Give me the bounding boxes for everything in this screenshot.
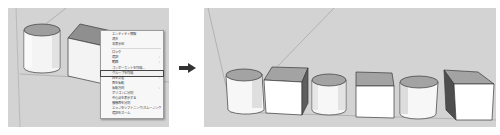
menu-item-zoom-selection[interactable]: 選択をズーム xyxy=(101,111,163,116)
box-shape[interactable] xyxy=(356,72,394,118)
box-shape[interactable] xyxy=(444,70,494,120)
cylinder-shape[interactable] xyxy=(226,69,264,114)
sketchup-viewport-before[interactable]: エンティティ情報 消去 非表示化 ロック 選択› 範囲› コンポーネントを作成.… xyxy=(8,8,169,127)
menu-item-label: 選択をズーム xyxy=(112,111,130,115)
menu-item-label: グループを作成 xyxy=(112,71,133,75)
cylinder-shape[interactable] xyxy=(400,76,438,119)
cylinder-shape[interactable] xyxy=(24,24,60,73)
menu-item-label: 範囲 xyxy=(112,60,118,64)
cylinder-shape[interactable] xyxy=(312,74,346,115)
menu-item-label: エンティティ情報 xyxy=(112,32,136,36)
sketchup-viewport-after[interactable] xyxy=(204,8,496,127)
menu-item-label: エッジをソフトニング/スムージング xyxy=(112,106,161,110)
menu-item-label: 非表示化 xyxy=(112,42,124,46)
menu-item-label: ポリゴンに分割 xyxy=(112,91,133,95)
menu-item-label: 中心点を表示する xyxy=(112,96,136,100)
menu-item-label: 接触面を分割 xyxy=(112,101,130,105)
box-shape[interactable] xyxy=(264,67,308,115)
menu-item-label: 消去 xyxy=(112,37,118,41)
menu-item-label: 反転方向 xyxy=(112,86,124,90)
menu-item-label: 面を反転 xyxy=(112,81,124,85)
menu-separator xyxy=(111,48,161,49)
arrow-right-icon xyxy=(179,63,196,73)
menu-item-label: 面を交差 xyxy=(112,76,124,80)
viewport-scene xyxy=(204,8,496,127)
context-menu: エンティティ情報 消去 非表示化 ロック 選択› 範囲› コンポーネントを作成.… xyxy=(100,30,164,119)
menu-item-hide[interactable]: 非表示化 xyxy=(101,42,163,47)
menu-item-label: 選択 xyxy=(112,55,118,59)
menu-item-label: コンポーネントを作成... xyxy=(112,66,145,70)
menu-item-label: ロック xyxy=(112,50,121,54)
